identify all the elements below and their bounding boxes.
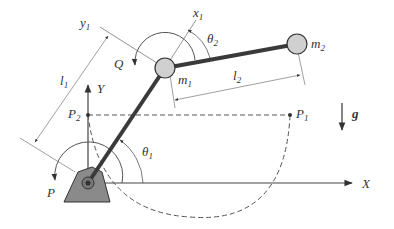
label-m1: m1 [178,72,192,89]
link-2 [165,44,297,68]
label-P1: P1 [295,106,308,123]
workspace-arc [88,115,290,218]
label-X: X [361,176,371,191]
point-p2 [86,113,90,117]
label-Q: Q [114,56,124,71]
label-g: g [351,106,359,121]
manipulator-diagram: X Y x1 y1 l1 l2 m1 m2 θ1 θ2 Q P P1 P2 g [0,0,394,229]
label-l1: l1 [60,73,68,90]
label-y1: y1 [78,15,90,32]
label-theta2: θ2 [207,31,218,48]
label-Y: Y [97,81,106,96]
label-l2: l2 [233,68,242,85]
y1-axis [100,27,165,68]
point-p1 [288,113,292,117]
mass-m1 [155,58,175,78]
label-x1: x1 [192,5,203,22]
label-theta1: θ1 [142,144,153,161]
theta1-arc [120,140,143,183]
mass-m2 [287,34,307,54]
label-P2: P2 [67,106,81,123]
label-m2: m2 [311,36,325,53]
label-P: P [46,185,55,200]
